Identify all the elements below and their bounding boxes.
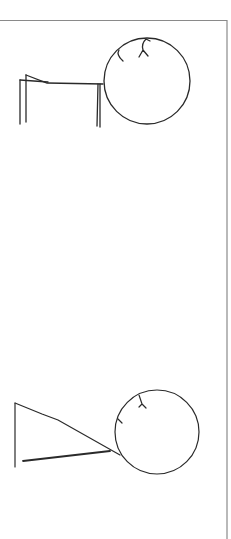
head — [104, 38, 190, 124]
arm — [97, 84, 98, 126]
hair-mark — [139, 395, 146, 408]
panel-border — [0, 20, 227, 539]
leg — [23, 451, 110, 461]
body — [15, 403, 120, 455]
drawing-canvas — [0, 0, 231, 539]
shoulder — [20, 80, 48, 82]
hair-mark — [118, 50, 123, 61]
head — [115, 390, 199, 474]
stick-figure-bottom — [15, 390, 199, 474]
hair-mark — [118, 419, 122, 423]
stick-figure-top — [20, 38, 190, 127]
body — [26, 75, 103, 84]
hair-mark — [139, 39, 150, 57]
